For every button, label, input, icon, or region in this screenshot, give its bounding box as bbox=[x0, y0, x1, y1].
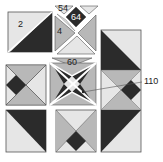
block-bottom-left bbox=[6, 110, 46, 152]
label-110: 110 bbox=[144, 76, 158, 86]
label-2: 2 bbox=[18, 19, 23, 29]
block-right-column bbox=[101, 30, 141, 152]
label-4: 4 bbox=[57, 26, 62, 36]
block-top-middle: 54 64 4 bbox=[55, 3, 98, 54]
block-middle-left bbox=[6, 65, 46, 105]
label-54: 54 bbox=[58, 3, 68, 13]
label-64: 64 bbox=[71, 12, 81, 22]
block-top-left: 2 bbox=[8, 12, 52, 52]
block-bottom-center bbox=[56, 110, 96, 152]
quilt-diagram: 2 54 64 4 60 bbox=[0, 0, 163, 162]
label-60: 60 bbox=[67, 57, 77, 67]
block-middle-center: 60 bbox=[50, 57, 96, 105]
